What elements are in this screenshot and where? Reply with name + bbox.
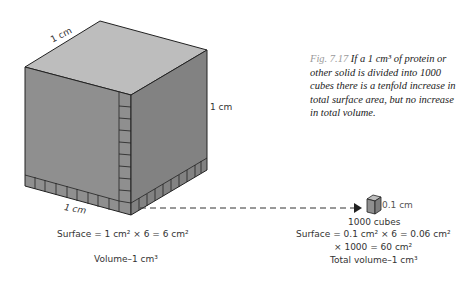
figure-number: Fig. 7.17: [310, 53, 348, 64]
small-cube-multiplier-text: × 1000 = 60 cm²: [334, 242, 412, 252]
figure-caption: Fig. 7.17 If a 1 cm³ of protein or other…: [310, 52, 460, 120]
cube-diagram: [0, 0, 460, 282]
small-cube-left-face: [367, 199, 375, 214]
small-cube-edge-label: 0.1 cm: [382, 200, 413, 210]
small-cube-count-text: 1000 cubes: [348, 217, 400, 227]
large-cube-surface-text: Surface = 1 cm² × 6 = 6 cm²: [57, 229, 189, 239]
small-cube-surface-text: Surface = 0.1 cm² × 6 = 0.06 cm²: [296, 229, 451, 239]
small-cube-total-volume-text: Total volume–1 cm³: [330, 255, 418, 265]
right-edge-label: 1 cm: [210, 102, 232, 112]
arrow-head-icon: [354, 203, 362, 213]
large-cube-volume-text: Volume–1 cm³: [94, 254, 158, 264]
